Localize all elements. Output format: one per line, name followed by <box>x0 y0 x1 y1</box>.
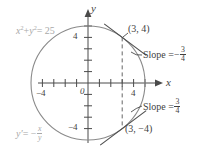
y-axis-label: y <box>91 3 96 14</box>
slope-lower-denominator: 4 <box>174 106 180 115</box>
x-tick-label-4: 4 <box>131 89 136 98</box>
slope-lower-numerator: 3 <box>174 98 180 106</box>
equation-circle: x2+y2= 25 <box>16 25 55 36</box>
slope-upper-numerator: 3 <box>180 46 186 54</box>
slope-upper-sign: − <box>174 49 180 60</box>
point-label-3-4: (3, 4) <box>128 24 150 34</box>
derivative-numerator: x <box>37 125 42 133</box>
y-tick-label-4: 4 <box>73 32 78 41</box>
implicit-differentiation-figure: x2+y2= 25 y′= −xy x y 0 −4 4 4 −4 (3, 4)… <box>0 0 202 154</box>
slope-lower-fraction: 34 <box>174 98 180 115</box>
slope-lower-text: Slope = <box>143 101 174 112</box>
slope-label-upper: Slope =−34 <box>143 47 186 64</box>
x-axis-arrowhead <box>155 80 163 87</box>
slope-label-lower: Slope =34 <box>143 99 181 116</box>
x-tick-label-neg4: −4 <box>36 89 46 98</box>
slope-upper-denominator: 4 <box>180 54 186 63</box>
derivative-fraction: xy <box>37 125 42 142</box>
derivative-denominator: y <box>37 133 42 142</box>
point-label-3-neg4: (3, −4) <box>125 124 152 134</box>
slope-upper-text: Slope = <box>143 49 174 60</box>
equation-derivative: y′= −xy <box>16 126 43 143</box>
x-axis-label: x <box>166 77 171 88</box>
derivative-lhs: y′ <box>16 128 23 139</box>
y-tick-label-neg4: −4 <box>68 123 78 132</box>
leader-lower <box>131 106 142 112</box>
derivative-equals: = − <box>23 128 37 139</box>
equation-circle-rhs: = 25 <box>37 25 55 36</box>
slope-upper-fraction: 34 <box>180 46 186 63</box>
origin-label: 0 <box>80 87 85 96</box>
